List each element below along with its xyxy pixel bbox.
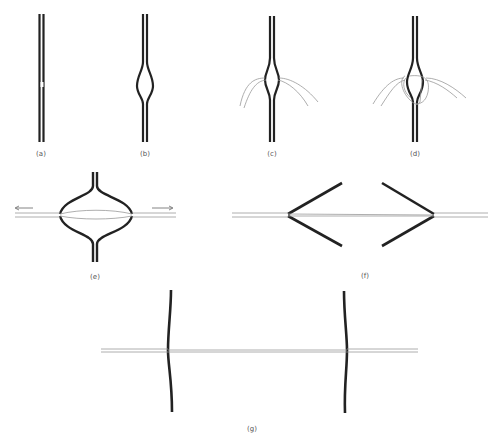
panel-g-separated-strands xyxy=(101,290,418,413)
panel-a-label: (a) xyxy=(36,150,46,158)
panel-e-label: (e) xyxy=(90,273,100,281)
panel-d-label: (d) xyxy=(410,150,420,158)
arrow-right-icon xyxy=(152,206,173,210)
panel-d-bubble-with-loops xyxy=(373,16,466,142)
arrow-left-icon xyxy=(15,206,33,210)
panel-e-large-bubble xyxy=(15,172,176,262)
panel-c-bubble-with-primers xyxy=(240,16,318,142)
panel-c-label: (c) xyxy=(267,150,276,158)
panel-b-replication-bubble xyxy=(137,14,153,142)
panel-a-double-strand xyxy=(40,14,44,142)
panel-b-label: (b) xyxy=(140,150,150,158)
panel-g-label: (g) xyxy=(247,425,257,433)
dna-replication-diagram xyxy=(0,0,498,443)
panel-f-label: (f) xyxy=(361,272,369,280)
panel-f-separated-forks xyxy=(232,183,488,246)
